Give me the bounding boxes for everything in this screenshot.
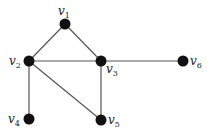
node-v5 — [96, 115, 107, 126]
node-v4 — [24, 114, 35, 125]
node-label-v4: v4 — [8, 112, 20, 128]
graph-diagram: v1v2v3v4v5v6 — [0, 0, 207, 135]
node-label-v1: v1 — [58, 4, 70, 20]
node-v6 — [178, 56, 189, 67]
node-v2 — [24, 56, 35, 67]
node-v3 — [96, 56, 107, 67]
edge-v2-v5 — [29, 61, 101, 120]
labels: v1v2v3v4v5v6 — [8, 4, 202, 129]
edge-v1-v2 — [29, 24, 65, 61]
node-label-v5: v5 — [108, 113, 120, 129]
edge-v1-v3 — [65, 24, 101, 61]
node-label-v6: v6 — [190, 54, 202, 70]
node-label-v3: v3 — [106, 62, 118, 78]
node-v1 — [60, 19, 71, 30]
node-label-v2: v2 — [9, 54, 21, 70]
